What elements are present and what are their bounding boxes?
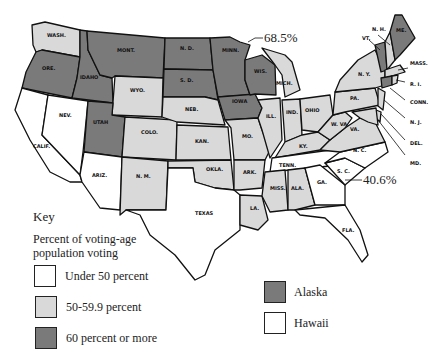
label-ala: ALA.: [291, 185, 304, 191]
label-sc: S. C.: [337, 168, 350, 174]
state-fla[interactable]: [295, 205, 368, 262]
label-ariz: ARIZ.: [92, 172, 107, 178]
label-ky: KY.: [299, 143, 308, 149]
label-ri: R. I.: [410, 81, 421, 87]
state-ark[interactable]: [234, 160, 265, 190]
min-callout: 40.6%: [363, 172, 397, 187]
label-iowa: IOWA: [232, 98, 247, 104]
label-va: VA.: [350, 126, 359, 132]
state-nd[interactable]: [164, 38, 213, 70]
key-subtitle-1: Percent of voting-age: [33, 232, 136, 247]
label-idaho: IDAHO: [80, 74, 98, 80]
label-vt: VT.: [362, 35, 371, 41]
label-nev: NEV.: [59, 112, 72, 118]
state-minn[interactable]: [210, 37, 250, 97]
state-nm[interactable]: [120, 157, 168, 215]
label-tenn: TENN.: [279, 162, 296, 168]
label-mo: MO.: [242, 133, 253, 139]
label-nm: N. M.: [136, 173, 151, 179]
state-sd[interactable]: [163, 69, 218, 100]
swatch-hawaii: [264, 312, 286, 334]
label-conn: CONN.: [410, 99, 428, 105]
label-mich: MICH.: [276, 80, 293, 86]
label-ore: ORE.: [42, 65, 56, 71]
swatch-50-59: [35, 296, 57, 318]
label-ny: N. Y.: [358, 71, 371, 77]
state-ariz[interactable]: [80, 152, 122, 210]
label-ga: GA.: [317, 179, 327, 185]
label-ark: ARK.: [243, 169, 257, 175]
key-item-over-60: 60 percent or more: [66, 331, 157, 346]
label-wyo: WYO.: [130, 87, 145, 93]
swatch-alaska: [264, 281, 286, 303]
label-minn: MINN.: [222, 47, 239, 53]
state-miss[interactable]: [262, 170, 288, 212]
state-nj[interactable]: [378, 88, 385, 110]
label-mass: MASS.: [410, 60, 428, 66]
label-calif: CALIF.: [33, 143, 50, 149]
swatch-over-60: [35, 327, 57, 349]
label-mont: MONT.: [117, 47, 135, 53]
key-subtitle-2: population voting: [33, 246, 118, 261]
swatch-under-50: [34, 265, 56, 287]
label-md: MD.: [410, 160, 421, 166]
label-sd: S. D.: [180, 77, 193, 83]
state-conn[interactable]: [381, 76, 392, 88]
label-ind: IND.: [286, 109, 298, 115]
label-la: LA.: [250, 205, 259, 211]
label-kan: KAN.: [195, 138, 209, 144]
label-neb: NEB.: [185, 106, 198, 112]
key-title: Key: [33, 209, 55, 225]
key-hawaii: Hawaii: [294, 316, 329, 331]
label-colo: COLO.: [141, 129, 158, 135]
label-okla: OKLA.: [206, 166, 223, 172]
label-del: DEL.: [410, 140, 423, 146]
label-nj: N. J.: [410, 119, 422, 125]
label-pa: PA.: [350, 95, 359, 101]
label-wis: WIS.: [254, 68, 267, 74]
label-nd: N. D.: [180, 45, 194, 51]
label-ill: ILL.: [266, 113, 276, 119]
max-callout: 68.5%: [264, 30, 298, 45]
label-wash: WASH.: [47, 32, 66, 38]
label-miss: MISS.: [270, 185, 286, 191]
label-utah: UTAH: [93, 119, 108, 125]
key-item-under-50: Under 50 percent: [65, 269, 148, 284]
label-nh: N. H.: [372, 26, 386, 32]
key-item-50-59: 50-59.9 percent: [66, 300, 141, 315]
state-colo[interactable]: [122, 117, 177, 160]
state-me[interactable]: [390, 15, 415, 60]
label-nc: N. C.: [353, 147, 366, 153]
state-wyo[interactable]: [112, 76, 163, 117]
label-me: ME.: [396, 27, 406, 33]
label-texas: TEXAS: [195, 210, 214, 216]
key-alaska: Alaska: [294, 285, 327, 300]
state-mont[interactable]: [87, 31, 165, 78]
label-ohio: OHIO: [305, 107, 320, 113]
label-wva: W. VA.: [331, 121, 349, 127]
label-fla: FLA.: [342, 227, 355, 233]
